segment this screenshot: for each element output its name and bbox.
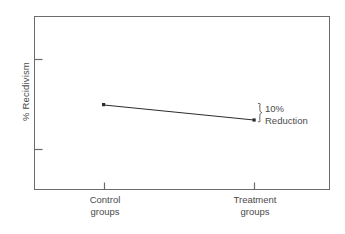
x-axis-label-control-line2: groups	[74, 206, 136, 218]
x-axis-label-control: Control groups	[74, 194, 136, 217]
chart-figure: % Recidivism Control groups Treatment gr…	[0, 0, 345, 234]
x-axis-label-treatment-line1: Treatment	[219, 194, 291, 206]
x-axis-label-treatment-line2: groups	[219, 206, 291, 218]
x-axis-label-treatment: Treatment groups	[219, 194, 291, 217]
reduction-annotation-line1: 10%	[265, 103, 308, 115]
data-point-treatment	[253, 118, 256, 121]
reduction-annotation-line2: Reduction	[265, 115, 308, 127]
x-axis-label-control-line1: Control	[74, 194, 136, 206]
data-point-control	[102, 103, 105, 106]
y-axis-label: % Recidivism	[20, 37, 31, 147]
reduction-annotation: 10% Reduction	[265, 103, 308, 126]
